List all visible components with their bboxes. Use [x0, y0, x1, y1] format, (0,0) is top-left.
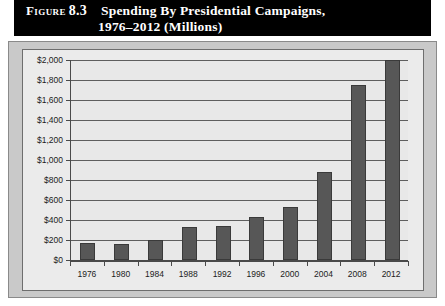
bar	[283, 207, 298, 260]
y-axis-label: $200	[44, 235, 63, 245]
y-axis-label: $800	[44, 175, 63, 185]
x-axis-tick	[374, 261, 375, 266]
y-axis-label: $1,200	[37, 135, 63, 145]
x-axis-label: 2000	[280, 269, 299, 279]
bar	[148, 240, 163, 260]
bar	[385, 60, 400, 260]
y-axis-label: $1,800	[37, 75, 63, 85]
figure-header: Figure8.3Spending By Presidential Campai…	[14, 0, 431, 36]
x-axis-tick	[171, 261, 172, 266]
y-axis-label: $1,000	[37, 155, 63, 165]
x-axis-tick	[239, 261, 240, 266]
bar	[182, 227, 197, 260]
x-axis-tick	[340, 261, 341, 266]
x-axis-label: 1992	[213, 269, 232, 279]
y-axis-label: $600	[44, 195, 63, 205]
bar	[317, 172, 332, 260]
bar	[216, 226, 231, 260]
x-axis-tick	[205, 261, 206, 266]
x-axis-label: 1984	[145, 269, 164, 279]
figure-title-line-2: 1976–2012 (Millions)	[26, 19, 431, 35]
figure-label-word: Figure	[26, 3, 66, 18]
x-axis-label: 2004	[314, 269, 333, 279]
bar	[114, 244, 129, 260]
x-axis-tick	[408, 261, 409, 266]
x-axis-tick	[307, 261, 308, 266]
bars-layer	[71, 60, 408, 260]
bar	[351, 85, 366, 260]
figure-title-line-1: Figure8.3Spending By Presidential Campai…	[26, 3, 431, 19]
x-axis-tick	[273, 261, 274, 266]
figure-number: 8.3	[69, 3, 87, 18]
x-axis-tick	[104, 261, 105, 266]
x-axis-label: 1980	[111, 269, 130, 279]
plot-area: $0$200$400$600$800$1,000$1,200$1,400$1,6…	[70, 60, 408, 260]
bar	[80, 243, 95, 260]
y-axis-label: $400	[44, 215, 63, 225]
chart-frame: $0$200$400$600$800$1,000$1,200$1,400$1,6…	[22, 49, 424, 291]
x-axis-label: 2008	[348, 269, 367, 279]
x-axis-label: 1976	[77, 269, 96, 279]
x-axis-tick	[138, 261, 139, 266]
x-axis-tick	[70, 261, 71, 266]
bar	[249, 217, 264, 260]
x-axis-label: 1988	[179, 269, 198, 279]
x-axis-label: 2012	[382, 269, 401, 279]
y-axis-label: $0	[54, 255, 63, 265]
y-axis-label: $2,000	[37, 55, 63, 65]
figure-title-text: Spending By Presidential Campaigns,	[101, 3, 325, 18]
y-axis-label: $1,400	[37, 115, 63, 125]
chart-panel: $0$200$400$600$800$1,000$1,200$1,400$1,6…	[8, 41, 437, 298]
x-axis-label: 1996	[246, 269, 265, 279]
y-axis-label: $1,600	[37, 95, 63, 105]
